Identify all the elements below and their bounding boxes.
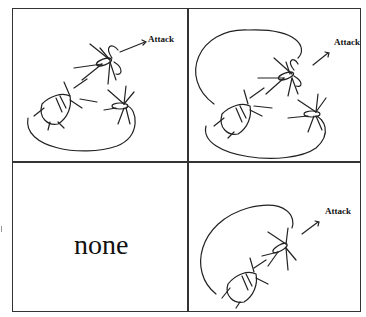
spider-icon-attacking [262,228,296,270]
spider-icon-attacking [74,44,121,84]
spider-attack-illustration [12,8,187,161]
spider-attack-illustration [188,8,361,161]
bug-icon [214,90,262,138]
bug-icon [34,82,82,130]
spider-icon [104,86,134,124]
spider-icon-attacking [258,58,301,96]
spider-attack-illustration [188,162,361,312]
edge-mark [1,226,5,232]
spider-icon [288,94,326,132]
attack-label: Attack [325,206,351,216]
none-label: none [74,229,128,261]
attack-label: Attack [334,37,360,47]
panel-bottom-right: Attack [188,162,361,312]
panel-bottom-left: none [12,162,187,312]
panel-top-right: Attack [188,8,361,161]
attack-label: Attack [148,34,174,44]
panel-top-left: Attack [12,8,187,161]
bug-icon [222,258,268,308]
